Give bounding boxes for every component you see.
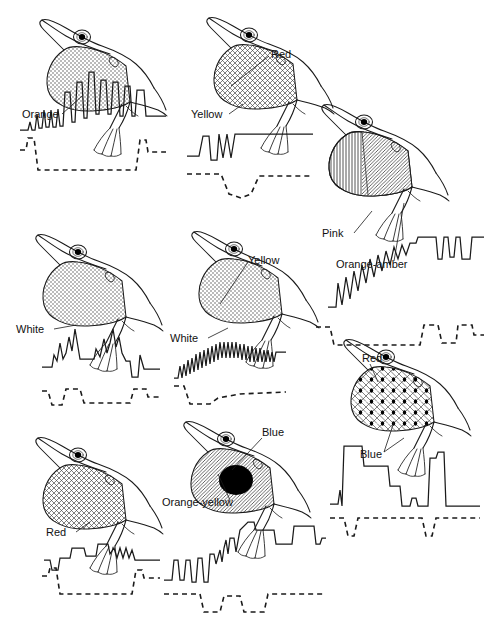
label-white: White [170,328,228,344]
panel-1: Orange [18,10,168,205]
label-red-text: Red [46,526,66,538]
display-action-pattern-trace [42,329,160,405]
head-bob-trace [330,518,480,536]
dewlap-extension-trace [330,446,480,506]
label-orange-amber: Orange-amber [336,203,408,270]
panel-5: YellowWhite [170,222,320,407]
lizard-drawing [322,104,449,241]
label-white-text: White [16,323,44,335]
dewlap-extension-trace [164,522,326,582]
label-red-text: Red [362,352,382,364]
dewlap-extension-trace [42,329,160,377]
label-yellow-text: Yellow [248,254,279,266]
dewlap-extension-trace [174,342,286,378]
label-yellow-text: Yellow [191,108,222,120]
display-action-pattern-trace [164,522,326,612]
display-action-pattern-trace [187,134,313,198]
head-bob-trace [174,386,286,404]
panel-7: Red [14,428,164,613]
anole-dewlap-figure: OrangeRedYellowPinkOrange-amberWhiteYell… [0,0,493,640]
display-action-pattern-trace [316,237,484,345]
panel-4: White [14,225,164,405]
label-blue-text: Blue [262,426,284,438]
head-bob-trace [20,138,166,170]
label-white: White [16,323,76,335]
dewlap-extension-trace [328,237,484,307]
label-red-text: Red [271,48,291,60]
lizard-drawing [184,421,311,558]
label-pink-text: Pink [322,227,344,239]
dewlap-extension-trace [44,544,160,570]
label-orange-yellow-text: Orange-yellow [162,496,233,508]
label-pink: Pink [322,211,372,239]
head-bob-trace [42,568,160,594]
lizard-drawing [36,437,163,574]
display-action-pattern-trace [174,342,286,404]
display-action-pattern-trace [330,446,480,536]
head-bob-trace [187,174,313,198]
label-orange-text: Orange [22,108,59,120]
panel-3: PinkOrange-amber [300,95,485,295]
panel-6: RedBlue [322,330,487,520]
label-white-text: White [170,332,198,344]
lizard-drawing [40,19,167,156]
head-bob-trace [164,594,326,612]
dewlap-extension-trace [187,134,313,160]
lizard-drawing [192,231,319,368]
lizard-drawing [36,234,163,371]
panel-8: BlueOrange-yellow [162,412,327,612]
head-bob-trace [42,389,160,405]
